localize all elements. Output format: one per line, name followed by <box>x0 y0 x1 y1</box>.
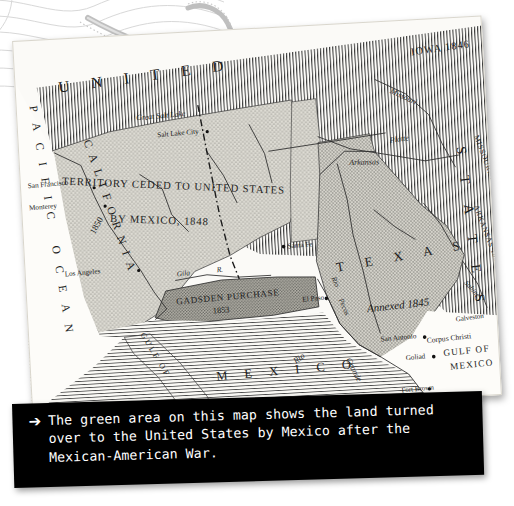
gadsden-purchase-year: 1853 <box>212 305 229 315</box>
arkansas-river-label: Arkansas <box>348 157 379 167</box>
historical-map-image: U N I T E D S T A T E S IOWA 1846 MISSOU… <box>12 16 502 421</box>
caption-text: The green area on this map shows the lan… <box>48 401 435 467</box>
arrow-bullet-icon: ➔ <box>28 413 41 430</box>
gila-river-abbrev: R. <box>215 265 223 275</box>
gila-river-label: Gila <box>176 268 190 278</box>
caption-bar: ➔ The green area on this map shows the l… <box>12 391 484 488</box>
